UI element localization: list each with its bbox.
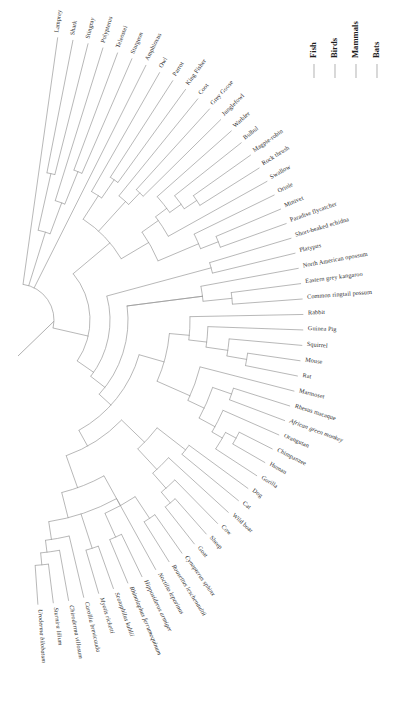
tip-label: Sturnira lilium	[53, 607, 65, 646]
tip-label: Carollia brevicauda	[84, 601, 103, 653]
tip-label: Scotophilus kuhlii	[114, 591, 136, 637]
legend: FishBirdsMammalsBats	[308, 21, 381, 78]
tip-label: Bulbul	[241, 124, 259, 140]
tree-branches	[18, 38, 303, 605]
tip-label: Polypterus	[99, 15, 114, 44]
tip-label: Cat	[242, 499, 253, 510]
tip-label: Oriole	[276, 180, 294, 194]
tip-label: Wild boar	[231, 511, 255, 533]
tip-label: Eastern grey kangaroo	[305, 270, 363, 284]
tree-canvas: LampreySharkStingrayPolypterusTeleosteiS…	[0, 0, 398, 721]
tip-label: Marmoset	[299, 387, 326, 400]
tip-label: Sheep	[209, 534, 225, 550]
tip-label: Common ringtail possum	[307, 288, 373, 300]
tip-label: Mouse	[305, 356, 323, 365]
tip-label: Rhesus macaque	[294, 402, 337, 422]
tip-label: Stingray	[83, 16, 95, 40]
legend-label-fish: Fish	[308, 42, 318, 58]
tip-label: Swallow	[268, 163, 291, 180]
tip-label: Uroderma bilobatum	[37, 609, 48, 664]
tip-label: Parrot	[170, 60, 185, 77]
tip-label: Dog	[251, 487, 264, 499]
tip-label: Platypus	[299, 241, 323, 253]
tip-label: Myotis ricketti	[99, 595, 117, 634]
tip-label: Sturgeon	[128, 31, 144, 55]
tip-label: Rabbit	[308, 308, 325, 315]
tip-label: Squirrel	[307, 340, 328, 349]
tip-label: Amphioxus	[143, 31, 163, 61]
tip-label: Chiroderma villosum	[68, 604, 85, 659]
tip-label: Shark	[68, 19, 78, 36]
tip-label: Human	[269, 460, 289, 475]
phylogenetic-tree-figure: LampreySharkStingrayPolypterusTeleosteiS…	[0, 0, 398, 721]
tip-label: Goat	[197, 544, 210, 558]
tip-label: North American opossum	[302, 250, 368, 269]
tip-label: Minivet	[283, 194, 305, 208]
tip-label: Chimpanzee	[276, 446, 308, 467]
tip-label: Rat	[302, 371, 312, 380]
tip-label: Coot	[196, 81, 209, 95]
tip-label: Guinea Pig	[308, 324, 337, 332]
tip-label: Owl	[157, 56, 169, 69]
tip-label: Cow	[220, 523, 234, 537]
tip-label: Gorilla	[260, 473, 279, 489]
legend-label-birds: Birds	[329, 37, 339, 58]
tip-label: Warbler	[231, 110, 251, 129]
legend-label-mammals: Mammals	[350, 21, 360, 58]
tip-label: Teleostei	[114, 24, 129, 48]
tip-label: Rousettus leschenaultii	[170, 562, 208, 617]
legend-label-bats: Bats	[371, 41, 381, 58]
tip-label: Lamprey	[52, 8, 62, 33]
tip-label: Orangutan	[283, 431, 311, 448]
